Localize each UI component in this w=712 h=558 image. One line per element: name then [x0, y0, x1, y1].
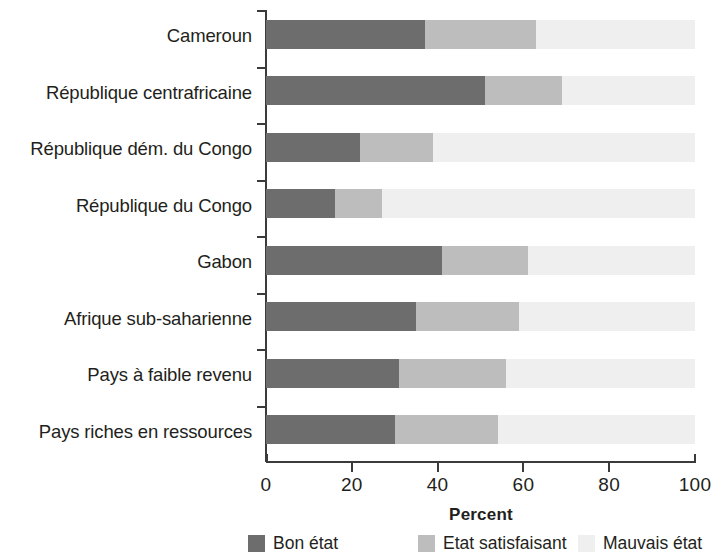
legend-label: Etat satisfaisant — [443, 533, 567, 554]
y-axis-tick — [257, 236, 266, 238]
y-axis-category-label: Cameroun — [0, 25, 252, 47]
bar-segment-mauvais-etat — [382, 189, 695, 218]
legend-item: Bon état — [248, 533, 338, 554]
table-row — [266, 302, 695, 331]
x-axis-tick — [351, 463, 353, 472]
bar-segment-etat-satisfaisant — [335, 189, 382, 218]
y-axis-tick — [257, 10, 266, 12]
x-axis-tick — [522, 463, 524, 472]
table-row — [266, 189, 695, 218]
bar-segment-bon-etat — [266, 189, 335, 218]
bar-segment-etat-satisfaisant — [395, 415, 498, 444]
x-axis-tick-label: 100 — [679, 474, 712, 496]
bar-segment-etat-satisfaisant — [416, 302, 519, 331]
bar-segment-etat-satisfaisant — [442, 246, 528, 275]
bar-segment-etat-satisfaisant — [399, 359, 506, 388]
y-axis-category-label: République du Congo — [0, 195, 252, 217]
y-axis-category-label: Pays riches en ressources — [0, 421, 252, 443]
y-axis-tick — [257, 180, 266, 182]
bar-segment-mauvais-etat — [506, 359, 695, 388]
y-axis-tick — [257, 349, 266, 351]
bar-segment-mauvais-etat — [528, 246, 695, 275]
x-axis-tick — [608, 463, 610, 472]
bar-segment-mauvais-etat — [433, 133, 695, 162]
y-axis-tick — [257, 67, 266, 69]
legend-label: Bon état — [273, 533, 338, 554]
x-axis-line — [266, 461, 696, 463]
y-axis-tick — [257, 406, 266, 408]
x-axis-title: Percent — [266, 505, 696, 525]
bar-segment-etat-satisfaisant — [425, 20, 537, 49]
x-axis-cap-left — [266, 454, 268, 463]
y-axis-tick — [257, 293, 266, 295]
y-axis-category-label: République centrafricaine — [0, 82, 252, 104]
bar-segment-mauvais-etat — [519, 302, 695, 331]
bar-segment-mauvais-etat — [536, 20, 695, 49]
bar-segment-mauvais-etat — [498, 415, 695, 444]
x-axis-tick-label: 60 — [513, 474, 535, 496]
y-axis-category-label: Gabon — [0, 251, 252, 273]
table-row — [266, 20, 695, 49]
bar-segment-etat-satisfaisant — [485, 76, 562, 105]
table-row — [266, 76, 695, 105]
legend-item: Etat satisfaisant — [418, 533, 567, 554]
y-axis-category-label: Afrique sub-saharienne — [0, 308, 252, 330]
x-axis-tick — [437, 463, 439, 472]
bar-segment-bon-etat — [266, 133, 360, 162]
bar-segment-bon-etat — [266, 76, 485, 105]
table-row — [266, 415, 695, 444]
bar-segment-etat-satisfaisant — [360, 133, 433, 162]
stacked-bar-chart: CamerounRépublique centrafricaineRépubli… — [0, 0, 712, 558]
legend-item: Mauvais état — [578, 533, 702, 554]
bar-segment-bon-etat — [266, 246, 442, 275]
y-axis-category-label: Pays à faible revenu — [0, 364, 252, 386]
legend-swatch-icon — [578, 535, 595, 552]
legend-swatch-icon — [418, 535, 435, 552]
x-axis-tick-label: 40 — [427, 474, 449, 496]
x-axis-tick-label: 20 — [341, 474, 363, 496]
x-axis-cap-right — [694, 454, 696, 463]
x-axis-tick-label: 80 — [598, 474, 620, 496]
chart-legend: Bon étatEtat satisfaisantMauvais état — [0, 528, 712, 558]
legend-swatch-icon — [248, 535, 265, 552]
x-axis-tick-label: 0 — [261, 474, 272, 496]
table-row — [266, 246, 695, 275]
bar-segment-bon-etat — [266, 415, 395, 444]
bar-segment-bon-etat — [266, 302, 416, 331]
plot-area — [266, 10, 695, 462]
table-row — [266, 359, 695, 388]
bar-segment-mauvais-etat — [562, 76, 695, 105]
bar-segment-bon-etat — [266, 359, 399, 388]
table-row — [266, 133, 695, 162]
y-axis-category-label: République dém. du Congo — [0, 138, 252, 160]
legend-label: Mauvais état — [603, 533, 702, 554]
bar-segment-bon-etat — [266, 20, 425, 49]
y-axis-tick — [257, 123, 266, 125]
